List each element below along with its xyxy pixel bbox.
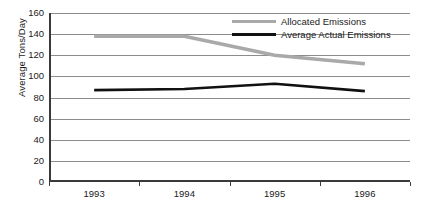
x-tick-label: 1994	[154, 188, 214, 199]
x-tick	[139, 182, 140, 186]
legend-line-icon-allocated	[232, 20, 276, 23]
y-tick-label: 80	[18, 93, 44, 103]
series-line	[94, 36, 365, 63]
series-line	[94, 84, 365, 91]
x-tick-label: 1996	[335, 188, 395, 199]
legend-line-icon-actual	[232, 33, 276, 36]
y-tick-label: 60	[18, 114, 44, 124]
legend-item-allocated: Allocated Emissions	[232, 16, 391, 27]
y-tick-label: 40	[18, 135, 44, 145]
x-tick-label: 1993	[64, 188, 124, 199]
y-tick-label: 120	[18, 50, 44, 60]
emissions-line-chart: Average Tons/Day 020406080100120140160 1…	[0, 0, 424, 215]
y-tick-label: 20	[18, 156, 44, 166]
x-tick	[320, 182, 321, 186]
x-tick	[49, 182, 50, 186]
y-tick-label: 0	[18, 177, 44, 187]
x-tick-label: 1995	[245, 188, 305, 199]
legend-label-allocated: Allocated Emissions	[281, 16, 366, 27]
y-axis-tick-labels: 020406080100120140160	[16, 0, 44, 215]
y-tick-label: 140	[18, 29, 44, 39]
legend-item-actual: Average Actual Emissions	[232, 29, 391, 40]
legend-label-actual: Average Actual Emissions	[281, 29, 391, 40]
y-tick-label: 160	[18, 8, 44, 18]
y-tick-label: 100	[18, 71, 44, 81]
chart-legend: Allocated Emissions Average Actual Emiss…	[232, 16, 391, 40]
x-tick	[230, 182, 231, 186]
x-tick	[410, 182, 411, 186]
